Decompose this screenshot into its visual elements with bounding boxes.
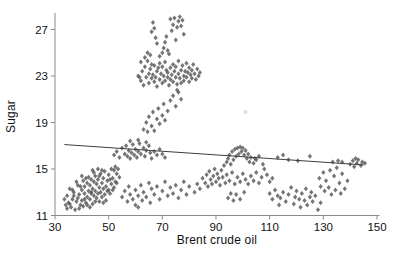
data-point bbox=[206, 184, 210, 189]
data-point bbox=[149, 123, 153, 128]
data-point bbox=[251, 178, 255, 183]
data-point bbox=[305, 203, 309, 208]
data-point bbox=[215, 171, 219, 176]
data-point bbox=[273, 187, 277, 192]
data-point bbox=[178, 76, 182, 81]
data-point bbox=[128, 192, 132, 197]
data-point bbox=[115, 171, 119, 176]
data-point bbox=[148, 200, 152, 205]
data-point bbox=[179, 68, 183, 73]
data-point bbox=[176, 19, 180, 24]
data-point bbox=[158, 54, 162, 59]
data-point bbox=[308, 154, 312, 159]
data-point bbox=[136, 193, 140, 198]
data-point bbox=[294, 189, 298, 194]
data-point bbox=[168, 17, 172, 22]
data-point bbox=[316, 207, 320, 212]
data-point bbox=[179, 24, 183, 29]
x-tick-label: 130 bbox=[314, 221, 333, 233]
data-point bbox=[184, 61, 188, 66]
data-point bbox=[335, 165, 339, 170]
data-point bbox=[265, 172, 269, 177]
data-point bbox=[229, 191, 233, 196]
data-point bbox=[155, 153, 159, 158]
x-tick-label: 150 bbox=[367, 221, 386, 233]
data-point bbox=[304, 186, 308, 191]
data-point bbox=[211, 173, 215, 178]
data-point bbox=[317, 176, 321, 181]
data-point bbox=[163, 40, 167, 45]
data-point bbox=[147, 114, 151, 119]
data-point bbox=[131, 142, 135, 147]
data-point bbox=[139, 183, 143, 188]
data-point bbox=[152, 26, 156, 31]
data-point bbox=[128, 139, 132, 144]
data-point bbox=[171, 191, 175, 196]
data-point bbox=[268, 179, 272, 184]
data-point bbox=[171, 22, 175, 27]
data-point bbox=[170, 72, 174, 77]
data-point bbox=[260, 175, 264, 180]
data-point bbox=[82, 191, 86, 196]
data-point bbox=[158, 77, 162, 82]
data-point bbox=[179, 187, 183, 192]
data-point bbox=[187, 79, 191, 84]
data-point bbox=[238, 197, 242, 202]
y-tick-label: 15 bbox=[35, 163, 48, 175]
data-point bbox=[144, 140, 148, 145]
data-point bbox=[96, 167, 100, 172]
data-point bbox=[298, 205, 302, 210]
data-point bbox=[73, 207, 77, 212]
data-point bbox=[149, 186, 153, 191]
data-point bbox=[319, 184, 323, 189]
data-point bbox=[170, 28, 174, 33]
data-point bbox=[231, 157, 235, 162]
data-point bbox=[147, 143, 151, 148]
data-point bbox=[163, 155, 167, 160]
data-point bbox=[339, 191, 343, 196]
data-point bbox=[308, 194, 312, 199]
data-point bbox=[203, 180, 207, 185]
data-point bbox=[226, 196, 230, 201]
data-point bbox=[158, 121, 162, 126]
data-point bbox=[155, 184, 159, 189]
y-axis-title: Sugar bbox=[4, 84, 18, 148]
data-point bbox=[171, 93, 175, 98]
data-point bbox=[174, 104, 178, 109]
data-point bbox=[337, 180, 341, 185]
data-point bbox=[233, 182, 237, 187]
trend-line bbox=[64, 145, 363, 165]
x-tick-label: 70 bbox=[156, 221, 169, 233]
data-point bbox=[262, 167, 266, 172]
y-tick-label: 23 bbox=[35, 70, 48, 82]
data-point bbox=[234, 192, 238, 197]
data-point bbox=[195, 182, 199, 187]
data-point bbox=[246, 182, 250, 187]
data-point bbox=[174, 75, 178, 80]
data-point bbox=[172, 69, 176, 74]
data-point bbox=[331, 160, 335, 165]
data-point bbox=[151, 20, 155, 25]
data-point bbox=[281, 153, 285, 158]
data-point bbox=[100, 180, 104, 185]
data-point bbox=[333, 187, 337, 192]
data-point bbox=[152, 149, 156, 154]
data-point bbox=[131, 197, 135, 202]
data-point bbox=[229, 162, 233, 167]
data-point bbox=[140, 198, 144, 203]
data-point bbox=[313, 193, 317, 198]
data-point bbox=[302, 198, 306, 203]
data-point bbox=[179, 97, 183, 102]
data-point bbox=[230, 170, 234, 175]
data-point bbox=[277, 203, 281, 208]
y-tick-label: 11 bbox=[36, 210, 48, 222]
data-point bbox=[286, 192, 290, 197]
data-point bbox=[141, 83, 145, 88]
data-point bbox=[205, 172, 209, 177]
data-point bbox=[152, 79, 156, 84]
data-point bbox=[257, 180, 261, 185]
x-tick-label: 50 bbox=[102, 221, 115, 233]
data-point bbox=[97, 199, 101, 204]
data-point bbox=[207, 169, 211, 174]
data-point bbox=[238, 179, 242, 184]
